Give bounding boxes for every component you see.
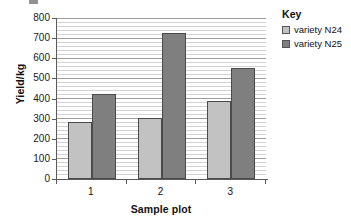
y-tick-mark (52, 58, 56, 59)
y-tick-label: 200 (22, 134, 50, 144)
legend-entry: variety N24 (282, 24, 350, 35)
y-tick-mark (52, 78, 56, 79)
x-tick-mark (195, 179, 196, 184)
x-category-label: 2 (141, 186, 181, 197)
legend-entry: variety N25 (282, 38, 350, 49)
y-tick-label: 500 (22, 73, 50, 83)
y-tick-label: 600 (22, 53, 50, 63)
y-tick-mark (52, 18, 56, 19)
y-tick-label: 100 (22, 154, 50, 164)
legend-title: Key (282, 8, 350, 20)
legend-entry-label: variety N25 (294, 38, 342, 49)
legend-swatch-icon (282, 26, 290, 34)
y-tick-mark (52, 99, 56, 100)
y-tick-mark (52, 159, 56, 160)
x-category-label: 3 (210, 186, 250, 197)
x-tick-mark (56, 179, 57, 184)
x-category-label: 1 (71, 186, 111, 197)
legend-entry-label: variety N24 (294, 24, 342, 35)
y-axis-tick-labels: 8007006005004003002001000 (20, 0, 50, 224)
legend-entries: variety N24variety N25 (282, 24, 350, 49)
legend-swatch-icon (282, 40, 290, 48)
x-axis-label: Sample plot (55, 203, 267, 215)
y-tick-label: 400 (22, 94, 50, 104)
y-tick-label: 700 (22, 33, 50, 43)
legend: Key variety N24variety N25 (282, 8, 350, 52)
y-axis-tick-marks (56, 18, 265, 179)
x-tick-mark (126, 179, 127, 184)
y-tick-label: 800 (22, 13, 50, 23)
y-tick-mark (52, 139, 56, 140)
y-tick-label: 300 (22, 114, 50, 124)
y-tick-mark (52, 119, 56, 120)
y-tick-label: 0 (22, 174, 50, 184)
y-tick-mark (52, 38, 56, 39)
x-tick-mark (265, 179, 266, 184)
x-axis-line (56, 179, 268, 180)
bar-chart-figure: Yield/kg 8007006005004003002001000 123 S… (0, 0, 351, 224)
